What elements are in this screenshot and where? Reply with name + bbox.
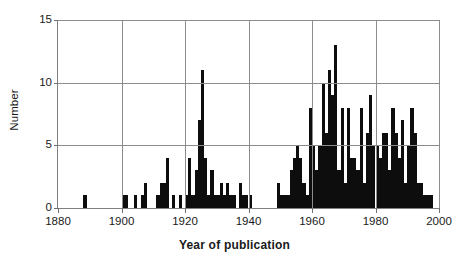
y-tick-label: 15 — [39, 14, 52, 26]
y-tick-label: 5 — [46, 140, 52, 152]
publication-year-histogram: Number 051015188019001920194019601980200… — [0, 0, 469, 262]
x-tick-mark — [439, 208, 440, 213]
x-tick-label: 1940 — [236, 216, 262, 228]
histogram-bar — [233, 195, 236, 208]
gridline-vertical — [122, 20, 123, 208]
histogram-bar — [144, 183, 147, 208]
histogram-bar — [83, 195, 86, 208]
x-tick-mark — [312, 208, 313, 213]
y-tick-label: 10 — [39, 77, 52, 89]
gridline-vertical — [439, 20, 440, 208]
y-axis-title: Number — [8, 70, 20, 150]
x-tick-mark — [58, 208, 59, 213]
x-tick-label: 1880 — [45, 216, 71, 228]
x-tick-label: 1960 — [299, 216, 325, 228]
gridline-vertical — [312, 20, 313, 208]
y-tick-label: 0 — [46, 202, 52, 214]
histogram-bar — [134, 195, 137, 208]
histogram-bar — [172, 195, 175, 208]
gridline-vertical — [376, 20, 377, 208]
x-axis-title: Year of publication — [0, 238, 469, 252]
x-tick-label: 1980 — [363, 216, 389, 228]
x-tick-label: 2000 — [426, 216, 452, 228]
x-tick-mark — [122, 208, 123, 213]
x-tick-mark — [249, 208, 250, 213]
plot-area: 0510151880190019201940196019802000 — [57, 20, 439, 209]
histogram-bar — [166, 158, 169, 208]
x-tick-mark — [185, 208, 186, 213]
y-tick-mark — [54, 83, 58, 84]
gridline-vertical — [185, 20, 186, 208]
y-tick-mark — [54, 145, 58, 146]
histogram-bar — [125, 195, 128, 208]
gridline-vertical — [249, 20, 250, 208]
x-tick-label: 1900 — [109, 216, 135, 228]
histogram-bar — [429, 195, 432, 208]
x-tick-mark — [376, 208, 377, 213]
y-tick-mark — [54, 20, 58, 21]
x-tick-label: 1920 — [172, 216, 198, 228]
histogram-bar — [179, 195, 182, 208]
